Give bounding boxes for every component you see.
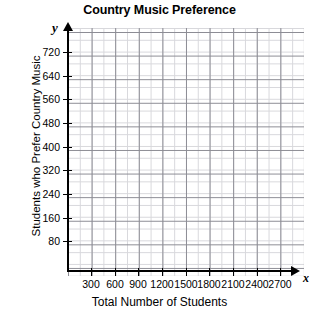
chart-title: Country Music Preference	[0, 3, 319, 17]
y-axis-variable-label: y	[52, 20, 58, 36]
grid-major-lines	[68, 28, 304, 276]
y-axis-arrow-icon	[63, 22, 73, 31]
y-axis-tick	[63, 52, 72, 53]
x-axis-tick-label: 2700	[260, 278, 300, 290]
x-axis-tick	[257, 268, 258, 276]
y-axis-tick	[63, 99, 72, 100]
y-axis-tick	[63, 241, 72, 242]
y-axis-title: Students who Prefer Country Music	[30, 31, 42, 261]
x-axis-tick	[91, 268, 92, 276]
x-axis-line	[67, 270, 293, 272]
x-axis-tick	[162, 268, 163, 276]
y-axis-line	[67, 30, 69, 272]
x-axis-tick	[233, 268, 234, 276]
y-axis-tick	[63, 147, 72, 148]
y-axis-tick	[63, 218, 72, 219]
x-axis-tick	[186, 268, 187, 276]
x-axis-title: Total Number of Students	[0, 295, 319, 309]
chart-figure: Country Music Preference y x 720 640 560…	[0, 0, 319, 321]
x-axis-variable-label: x	[303, 271, 309, 286]
plot-area	[68, 28, 304, 276]
y-axis-tick	[63, 76, 72, 77]
y-axis-tick	[63, 194, 72, 195]
x-axis-tick	[209, 268, 210, 276]
y-axis-tick	[63, 170, 72, 171]
y-axis-tick	[63, 123, 72, 124]
x-axis-arrow-icon	[291, 266, 300, 276]
x-axis-tick	[280, 268, 281, 276]
x-axis-tick	[138, 268, 139, 276]
x-axis-tick	[115, 268, 116, 276]
